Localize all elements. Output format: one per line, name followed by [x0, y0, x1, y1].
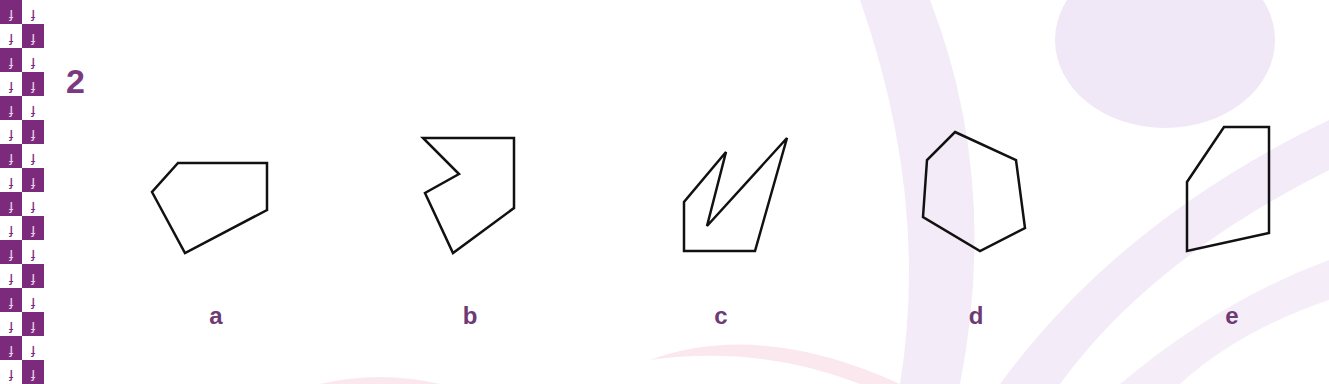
option-label-a[interactable]: a: [209, 302, 222, 330]
option-label-b[interactable]: b: [463, 302, 478, 330]
option-label-e[interactable]: e: [1225, 302, 1238, 330]
option-label-c[interactable]: c: [714, 302, 727, 330]
shape-option-d[interactable]: [923, 132, 1025, 251]
shape-option-b[interactable]: [423, 138, 514, 253]
shape-option-a[interactable]: [152, 163, 267, 253]
shape-option-c[interactable]: [684, 138, 787, 251]
shape-options: [0, 0, 1329, 384]
shape-option-e[interactable]: [1187, 127, 1269, 251]
option-label-d[interactable]: d: [969, 302, 984, 330]
